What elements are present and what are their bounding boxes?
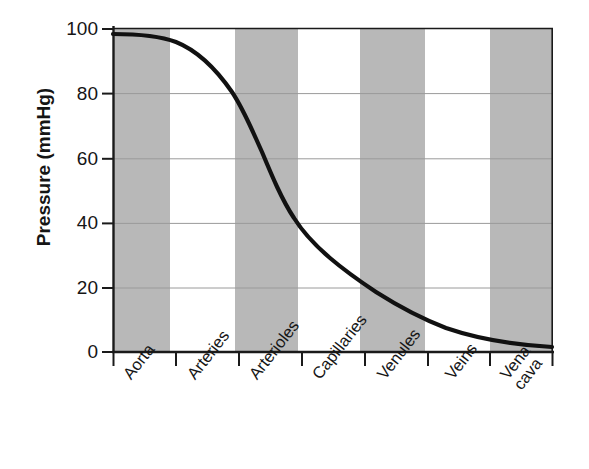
plot-background bbox=[113, 28, 553, 352]
band-vena-cava bbox=[490, 28, 553, 352]
plot-area bbox=[0, 0, 589, 469]
band-aorta bbox=[113, 28, 170, 352]
y-axis-ticks bbox=[102, 29, 113, 352]
chart-figure: Pressure (mmHg) 100 80 60 40 20 0 bbox=[0, 0, 589, 469]
band-arterioles bbox=[235, 28, 298, 352]
